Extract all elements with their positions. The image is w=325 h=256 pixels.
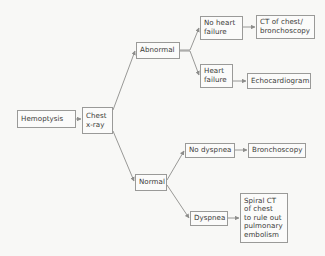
edge-normal-to-no-dyspnea: [167, 151, 184, 180]
node-no-heart-failure-label: No heart failure: [204, 19, 235, 36]
node-heart-failure-label: Heart failure: [204, 67, 227, 84]
node-no-dyspnea[interactable]: No dyspnea: [185, 143, 235, 158]
node-dyspnea-label: Dyspnea: [194, 214, 225, 223]
edge-chest-xray-to-abnormal: [113, 51, 135, 110]
node-chest-xray[interactable]: Chest x-ray: [82, 107, 113, 134]
node-spiral-ct[interactable]: Spiral CT of chest to rule out pulmonary…: [240, 193, 288, 243]
node-spiral-ct-label: Spiral CT of chest to rule out pulmonary…: [244, 197, 283, 240]
node-bronchoscopy[interactable]: Bronchoscopy: [248, 143, 306, 158]
node-normal[interactable]: Normal: [135, 174, 167, 191]
node-abnormal[interactable]: Abnormal: [136, 42, 180, 59]
node-echocardiogram[interactable]: Echocardiogram: [247, 73, 311, 89]
node-abnormal-label: Abnormal: [140, 46, 175, 55]
node-echocardiogram-label: Echocardiogram: [251, 77, 309, 86]
node-normal-label: Normal: [139, 178, 165, 187]
edge-normal-to-dyspnea: [167, 185, 189, 218]
edge-abnormal-to-no-heart-failure: [180, 28, 199, 50]
node-heart-failure[interactable]: Heart failure: [200, 64, 233, 88]
node-no-heart-failure[interactable]: No heart failure: [200, 16, 243, 40]
node-dyspnea[interactable]: Dyspnea: [190, 211, 228, 226]
flowchart-canvas: Hemoptysis Chest x-ray Abnormal No heart…: [0, 0, 325, 256]
node-hemoptysis-label: Hemoptysis: [21, 115, 63, 124]
node-hemoptysis[interactable]: Hemoptysis: [17, 110, 76, 128]
node-bronchoscopy-label: Bronchoscopy: [252, 146, 302, 155]
node-no-dyspnea-label: No dyspnea: [189, 146, 232, 155]
node-ct-chest-bronchoscopy-label: CT of chest/ bronchoscopy: [260, 18, 310, 35]
edge-chest-xray-to-normal: [113, 131, 134, 181]
edge-abnormal-to-heart-failure: [180, 51, 199, 75]
node-chest-xray-label: Chest x-ray: [86, 112, 107, 129]
node-ct-chest-bronchoscopy[interactable]: CT of chest/ bronchoscopy: [256, 15, 315, 39]
